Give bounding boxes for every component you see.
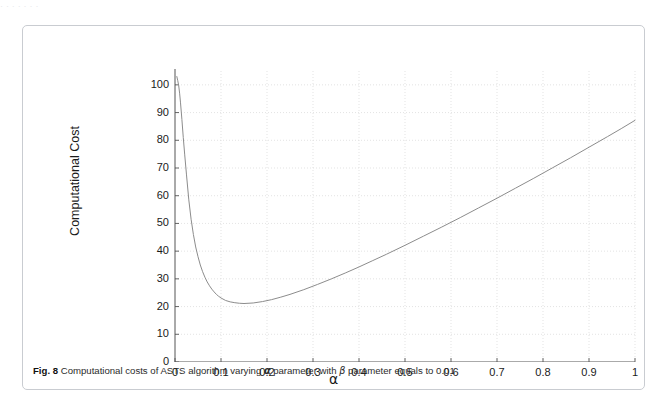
y-tick-label: 100	[139, 78, 169, 90]
y-tick-label: 70	[139, 161, 169, 173]
y-tick-label: 20	[139, 300, 169, 312]
y-tick-label: 90	[139, 106, 169, 118]
caption-part-2: parameter with	[270, 365, 339, 376]
y-axis-title: Computational Cost	[68, 81, 82, 281]
page-top-bleed-text: · · · · · · ·	[0, 0, 668, 12]
caption-part-3: parameter equals to 0.01	[345, 365, 454, 376]
plot-region: Computational Cost 010203040506070809010…	[23, 26, 644, 362]
y-tick-label: 40	[139, 244, 169, 256]
chart-canvas	[23, 26, 644, 362]
y-tick-label: 80	[139, 133, 169, 145]
y-tick-label: 10	[139, 327, 169, 339]
figure-card: Computational Cost 010203040506070809010…	[22, 25, 645, 390]
data-series-line	[177, 77, 635, 304]
figure-number: Fig. 8	[33, 365, 58, 376]
y-tick-label: 50	[139, 216, 169, 228]
figure-caption: Fig. 8 Computational costs of ASTS algor…	[33, 364, 633, 378]
gridlines	[175, 71, 635, 362]
y-tick-label: 60	[139, 189, 169, 201]
caption-part-1: Computational costs of ASTS algorithm va…	[58, 365, 264, 376]
y-tick-label: 30	[139, 272, 169, 284]
